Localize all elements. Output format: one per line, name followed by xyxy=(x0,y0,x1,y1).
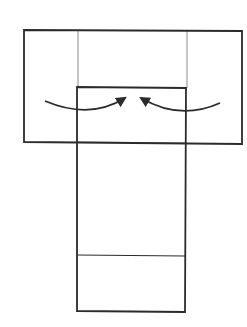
inner-rectangle xyxy=(77,87,186,312)
diagram-canvas xyxy=(0,0,247,327)
left-curved-arrow-icon xyxy=(45,98,125,110)
right-curved-arrow-icon xyxy=(141,98,220,111)
inner-divider xyxy=(77,255,185,256)
